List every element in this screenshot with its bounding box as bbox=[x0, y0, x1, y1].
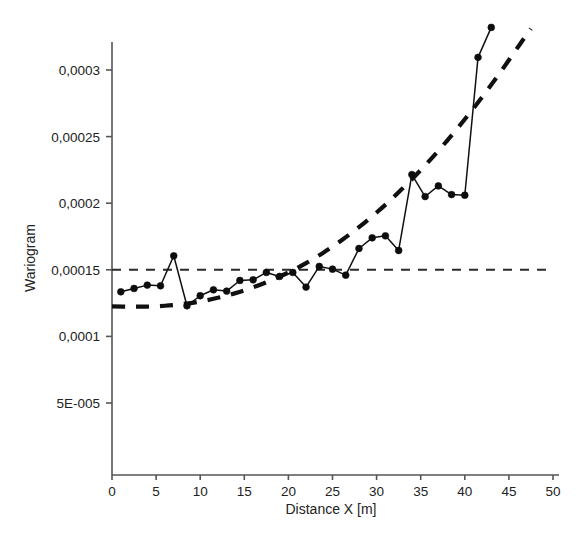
data-point bbox=[184, 302, 191, 309]
data-point bbox=[488, 24, 495, 31]
data-point bbox=[342, 272, 349, 279]
y-tick-label: 0,00025 bbox=[51, 130, 100, 145]
data-point bbox=[170, 252, 177, 259]
data-point bbox=[369, 234, 376, 241]
y-tick-label: 0,00015 bbox=[51, 263, 100, 278]
data-point bbox=[422, 193, 429, 200]
data-point bbox=[117, 288, 124, 295]
data-point bbox=[356, 245, 363, 252]
data-point bbox=[316, 263, 323, 270]
x-tick-label: 50 bbox=[545, 484, 560, 499]
data-point bbox=[435, 182, 442, 189]
y-tick-label: 0,0003 bbox=[59, 63, 100, 78]
x-tick-label: 5 bbox=[152, 484, 160, 499]
data-point bbox=[276, 273, 283, 280]
data-point bbox=[263, 269, 270, 276]
x-tick-label: 25 bbox=[325, 484, 340, 499]
data-point bbox=[197, 292, 204, 299]
x-tick-label: 45 bbox=[501, 484, 516, 499]
data-point bbox=[303, 284, 310, 291]
y-tick-label: 0,0001 bbox=[59, 329, 100, 344]
x-tick-label: 0 bbox=[108, 484, 116, 499]
data-point bbox=[250, 276, 257, 283]
y-tick-label: 5E-005 bbox=[56, 396, 100, 411]
data-point bbox=[461, 192, 468, 199]
x-tick-label: 35 bbox=[413, 484, 428, 499]
y-tick-label: 0,0002 bbox=[59, 196, 100, 211]
data-point bbox=[131, 285, 138, 292]
chart-page: 5E-0050,00010,000150,00020,000250,000305… bbox=[0, 0, 583, 545]
data-point bbox=[289, 269, 296, 276]
x-tick-label: 15 bbox=[237, 484, 252, 499]
data-point bbox=[329, 266, 336, 273]
data-point bbox=[236, 277, 243, 284]
data-point bbox=[210, 286, 217, 293]
data-point bbox=[382, 232, 389, 239]
x-tick-label: 20 bbox=[281, 484, 296, 499]
data-point bbox=[448, 191, 455, 198]
data-point bbox=[223, 288, 230, 295]
x-tick-label: 10 bbox=[193, 484, 208, 499]
x-axis-title: Distance X [m] bbox=[285, 501, 376, 517]
y-axis-title: Wariogram bbox=[22, 224, 38, 292]
data-point bbox=[144, 282, 151, 289]
variogram-chart: 5E-0050,00010,000150,00020,000250,000305… bbox=[0, 0, 583, 545]
x-tick-label: 40 bbox=[457, 484, 472, 499]
x-tick-label: 30 bbox=[369, 484, 384, 499]
data-point bbox=[157, 282, 164, 289]
data-point bbox=[475, 54, 482, 61]
data-point bbox=[408, 171, 415, 178]
data-point bbox=[395, 247, 402, 254]
